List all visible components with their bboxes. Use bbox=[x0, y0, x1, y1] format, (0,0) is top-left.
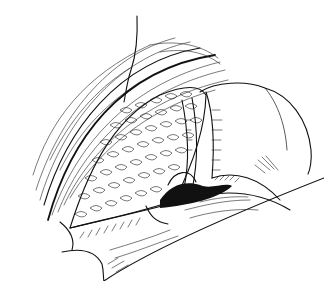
illustration-drawing bbox=[0, 0, 324, 281]
vessel-structure bbox=[160, 98, 232, 208]
retracted-bowel bbox=[200, 83, 311, 200]
medical-illustration bbox=[0, 0, 324, 281]
